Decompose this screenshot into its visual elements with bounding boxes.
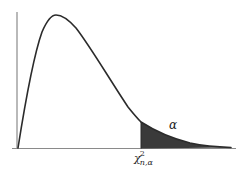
- chi-subscript: n,α: [140, 158, 153, 167]
- chi-square-diagram: [0, 0, 248, 172]
- critical-value-label: χ2n,α: [134, 148, 153, 168]
- alpha-label: α: [169, 118, 177, 132]
- shaded-tail-region: [141, 122, 231, 149]
- density-curve: [18, 15, 231, 148]
- chi-superscript: 2: [140, 149, 145, 158]
